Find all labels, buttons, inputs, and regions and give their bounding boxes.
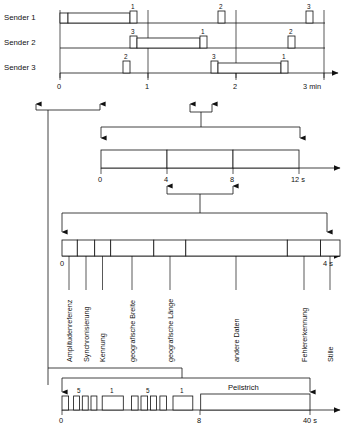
burst-label: 2 [289,28,293,35]
sender-row-label-1: Sender 1 [4,13,36,22]
burst-label: 3 [212,53,216,60]
peil-pulse [151,396,157,410]
peil-group-label: 5 [146,387,150,394]
burst [211,61,218,73]
peil-group-label: 1 [180,387,184,394]
telegram-slot [154,240,186,256]
telegram-slot [95,240,111,256]
burst [218,63,281,73]
telegram-slot [321,240,340,256]
telegram-slot [186,240,287,256]
burst-label: 1 [131,3,135,10]
slot-label-geografische-breite: geografische Breite [128,300,137,362]
peil-pulse [62,396,69,410]
axis-tick-label: 0 [98,175,102,184]
burst-label: 3 [307,3,311,10]
peil-pulse [82,396,88,410]
burst [281,61,288,73]
axis-tick-label: 2 [233,82,237,91]
connector-12s-to-4s [62,186,327,232]
section-4s-telegram: 0 4 s Amplitudenreferenz Synchronisierun… [60,240,340,362]
burst [218,11,225,23]
burst-label: 2 [219,3,223,10]
burst [288,36,295,48]
slot-label-amplitudenreferenz: Amplitudenreferenz [65,299,74,362]
section-sender-timelines: Sender 1 Sender 2 Sender 3 1 2 3 [4,3,338,91]
axis-tick-label: 8 [230,175,234,184]
axis-tick-label: 12 s [291,175,305,184]
sender-2-bursts: 3 1 2 [130,28,295,48]
burst-label: 2 [124,53,128,60]
burst [200,36,207,48]
burst [130,11,137,23]
peilstrich-label: Peilstrich [228,383,259,392]
slot-label-stille: Stille [326,346,335,362]
axis-tick-label: 4 [164,175,168,184]
telegram-slot [287,240,320,256]
burst-label: 3 [131,28,135,35]
peil-pulse-wide [102,396,123,410]
slot-label-fehlererkennung: Fehlererkennung [300,308,309,362]
peil-pulse [91,396,97,410]
frame12-segment [101,150,167,168]
burst [123,61,130,73]
telegram-slot [62,240,77,256]
axis-tick-label: 3 min [303,82,321,91]
sender-row-label-2: Sender 2 [4,38,36,47]
peil-pulse [160,396,167,410]
burst [306,11,313,23]
axis-tick-label: 0 [59,416,63,425]
slot-label-synchronisierung: Synchronisierung [82,306,91,362]
peil-pulse [141,396,148,410]
burst [137,38,200,48]
burst [130,36,137,48]
peil-pulse [132,396,139,410]
peil-group-label: 5 [77,387,81,394]
sender-1-bursts: 1 2 3 [60,3,313,23]
section-40s-peilsignal: Peilstrich 5 1 5 1 0 8 40 s [59,383,340,425]
axis-tick-label: 8 [197,416,201,425]
timing-diagram-svg: Sender 1 Sender 2 Sender 3 1 2 3 [0,0,351,427]
slot-label-andere-daten: andere Daten [232,318,241,362]
axis-tick-label: 0 [60,259,64,268]
sender-row-label-3: Sender 3 [4,63,36,72]
burst [60,13,68,23]
frame12-segment [233,150,299,168]
connector-to-40s [48,368,310,392]
axis-tick-label: 1 [145,82,149,91]
peil-peilstrich-pulse [201,394,310,410]
burst [68,13,130,23]
peil-group-label: 1 [110,387,114,394]
diagram-canvas: Sender 1 Sender 2 Sender 3 1 2 3 [0,0,351,427]
axis-tick-label: 40 s [303,416,317,425]
axis-tick-label: 4 s [323,259,333,268]
peil-pulse-wide [173,396,193,410]
slot-label-kennung: Kennung [98,333,107,362]
axis-tick-label: 0 [57,82,61,91]
burst-label: 1 [201,28,205,35]
telegram-slot [111,240,154,256]
frame12-segment [167,150,233,168]
burst-label: 1 [282,53,286,60]
section-12s-frame: 0 4 8 12 s [98,150,340,184]
slot-label-geografische-laenge: geografische Länge [166,299,175,362]
telegram-slot [77,240,94,256]
peil-pulse [74,396,80,410]
